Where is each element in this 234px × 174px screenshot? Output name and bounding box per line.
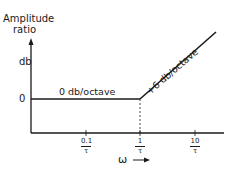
x-tick-label-2: 10 τ [185, 138, 205, 155]
x-label-arrow-icon [144, 158, 150, 163]
tick-denominator: τ [185, 147, 205, 155]
y-unit-label: db [19, 56, 32, 67]
tick-numerator: 0.1 [81, 138, 91, 147]
y-axis-arrow-icon [29, 38, 34, 45]
flat-label: 0 db/octave [59, 86, 115, 97]
x-tick-label-1: 1 τ [130, 138, 150, 155]
y-axis-title-line2: ratio [13, 24, 36, 35]
x-axis-label: ω [118, 154, 127, 165]
slope-label: +6 db/octave [144, 46, 200, 97]
y-axis-title-line1: Amplitude [3, 13, 54, 24]
tick-numerator: 1 [135, 138, 145, 147]
tick-denominator: τ [130, 147, 150, 155]
tick-numerator: 10 [190, 138, 200, 147]
tick-denominator: τ [76, 147, 96, 155]
y-zero-label: 0 [19, 93, 25, 104]
x-tick-label-0: 0.1 τ [76, 138, 96, 155]
